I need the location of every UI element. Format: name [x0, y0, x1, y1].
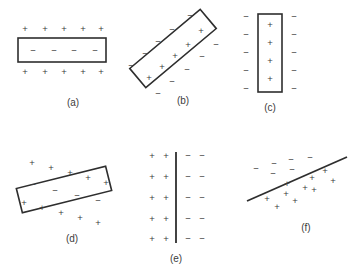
plus-charge: + [98, 23, 104, 34]
plus-charge: + [42, 23, 48, 34]
plus-charge: + [98, 66, 104, 77]
minus-charge: − [243, 47, 249, 58]
minus-charge: − [199, 233, 205, 244]
minus-charge: − [291, 83, 297, 94]
plus-charge: + [267, 55, 273, 66]
minus-charge: − [185, 213, 191, 224]
panel-a: +++++−−−−+++++(a) [18, 23, 106, 108]
charge-group-a-inside: −−−− [30, 45, 98, 56]
plus-charge: + [302, 182, 308, 193]
plus-charge: + [58, 207, 64, 218]
plus-charge: + [42, 66, 48, 77]
minus-charge: − [199, 51, 205, 62]
plus-charge: + [22, 66, 28, 77]
minus-charge: − [185, 233, 191, 244]
plus-charge: + [309, 172, 315, 183]
diagram-canvas: +++++−−−−+++++(a)+++++−−−−−−−−−−(b)++++−… [0, 0, 356, 272]
minus-charge: − [253, 163, 259, 174]
charge-group-c-outside-left: −−−−− [243, 11, 249, 94]
plus-charge: + [163, 150, 169, 161]
minus-charge: − [92, 45, 98, 56]
plus-charge: + [163, 171, 169, 182]
minus-charge: − [155, 88, 161, 99]
minus-charge: − [213, 39, 219, 50]
physics-charge-diagram: +++++−−−−+++++(a)+++++−−−−−−−−−−(b)++++−… [0, 0, 356, 272]
minus-charge: − [30, 179, 36, 190]
plus-charge: + [322, 165, 328, 176]
panel-d: +++++−−−−+++++(d) [16, 157, 111, 244]
plus-charge: + [274, 201, 280, 212]
panel-label-a: (a) [67, 97, 79, 108]
plus-charge: + [283, 188, 289, 199]
panel-f: −−−−−−++++++++++(f) [247, 152, 347, 233]
panel-b: +++++−−−−−−−−−−(b) [128, 9, 219, 105]
minus-charge: − [199, 150, 205, 161]
charge-group-f-above: −−−−−− [253, 152, 313, 179]
minus-charge: − [169, 24, 175, 35]
minus-charge: − [184, 64, 190, 75]
plus-charge: + [61, 23, 67, 34]
panel-c: ++++−−−−−−−−−−(c) [243, 11, 297, 113]
charge-group-c-inside: ++++ [267, 19, 273, 84]
minus-charge: − [291, 11, 297, 22]
panel-label-c: (c) [264, 102, 276, 113]
plus-charge: + [163, 213, 169, 224]
minus-charge: − [291, 47, 297, 58]
plus-charge: + [80, 23, 86, 34]
plus-charge: + [149, 213, 155, 224]
plus-charge: + [48, 162, 54, 173]
minus-charge: − [95, 195, 101, 206]
plus-charge: + [61, 66, 67, 77]
plus-charge: + [163, 192, 169, 203]
minus-charge: − [74, 190, 80, 201]
plus-charge: + [172, 50, 178, 61]
minus-charge: − [270, 168, 276, 179]
minus-charge: − [185, 150, 191, 161]
minus-charge: − [307, 152, 313, 163]
minus-charge: − [187, 10, 193, 21]
plus-charge: + [77, 212, 83, 223]
plus-charge: + [267, 19, 273, 30]
plus-charge: + [267, 37, 273, 48]
panel-label-d: (d) [66, 233, 78, 244]
minus-charge: − [128, 60, 134, 71]
plus-charge: + [267, 73, 273, 84]
plus-charge: + [29, 157, 35, 168]
plus-charge: + [21, 197, 27, 208]
plus-charge: + [264, 193, 270, 204]
plus-charge: + [292, 195, 298, 206]
panel-e: ++++++++++−−−−−−−−−−(e) [149, 150, 205, 264]
minus-charge: − [289, 164, 295, 175]
minus-charge: − [243, 11, 249, 22]
minus-charge: − [142, 48, 148, 59]
minus-charge: − [52, 185, 58, 196]
plus-charge: + [311, 184, 317, 195]
minus-charge: − [291, 65, 297, 76]
panel-label-b: (b) [177, 95, 189, 106]
minus-charge: − [199, 213, 205, 224]
minus-charge: − [291, 29, 297, 40]
minus-charge: − [199, 171, 205, 182]
minus-charge: − [199, 192, 205, 203]
charge-group-e-right: −−−−−−−−−− [185, 150, 205, 244]
plus-charge: + [146, 72, 152, 83]
plus-charge: + [85, 172, 91, 183]
minus-charge: − [185, 171, 191, 182]
plus-charge: + [22, 23, 28, 34]
minus-charge: − [51, 45, 57, 56]
charge-group-a-outside-top: +++++ [22, 23, 104, 34]
plus-charge: + [39, 202, 45, 213]
minus-charge: − [243, 65, 249, 76]
plus-charge: + [284, 178, 290, 189]
plus-charge: + [198, 25, 204, 36]
minus-charge: − [71, 45, 77, 56]
plus-charge: + [67, 167, 73, 178]
plus-charge: + [95, 217, 101, 228]
charge-group-e-left: ++++++++++ [149, 150, 169, 244]
charge-group-d-outside-bottom: +++++ [21, 197, 101, 228]
plus-charge: + [103, 177, 109, 188]
minus-charge: − [185, 192, 191, 203]
plus-charge: + [149, 233, 155, 244]
plus-charge: + [149, 150, 155, 161]
plus-charge: + [185, 39, 191, 50]
